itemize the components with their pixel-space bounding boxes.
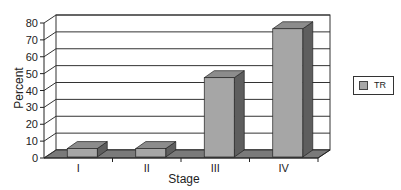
bar-III xyxy=(204,71,244,157)
y-tick-label: 70 xyxy=(26,34,38,46)
y-tick-label: 0 xyxy=(32,152,38,164)
x-tick-label: III xyxy=(211,162,220,174)
legend-swatch-tr xyxy=(359,81,368,90)
x-tick-label: II xyxy=(144,162,150,174)
y-tick-label: 10 xyxy=(26,135,38,147)
bar-IV xyxy=(273,22,313,157)
y-tick-label: 50 xyxy=(26,68,38,80)
y-tick-label: 30 xyxy=(26,101,38,113)
x-tick-label: IV xyxy=(279,162,290,174)
y-tick-label: 60 xyxy=(26,51,38,63)
x-axis-title: Stage xyxy=(168,172,200,186)
bar-chart: 01020304050607080 IIIIIIIV Percent Stage xyxy=(0,0,401,190)
y-tick-label: 20 xyxy=(26,118,38,130)
legend-label: TR xyxy=(374,80,386,90)
y-tick-label: 80 xyxy=(26,17,38,29)
y-axis: 01020304050607080 xyxy=(26,15,56,164)
y-tick-label: 40 xyxy=(26,85,38,97)
legend: TR xyxy=(353,76,394,95)
y-axis-title: Percent xyxy=(12,67,26,109)
x-tick-label: I xyxy=(77,162,80,174)
